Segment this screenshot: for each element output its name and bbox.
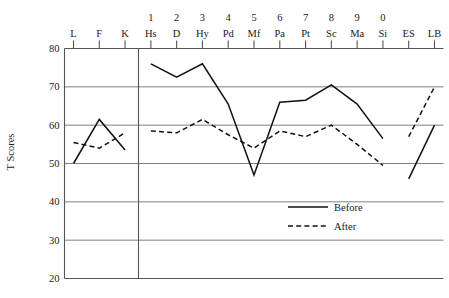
scale-label-f: F bbox=[96, 28, 102, 39]
scale-label-sc: Sc bbox=[326, 28, 337, 39]
scale-label-ma: Ma bbox=[350, 28, 364, 39]
scale-label-es: ES bbox=[403, 28, 415, 39]
scale-number-si: 0 bbox=[380, 12, 385, 23]
scale-number-pa: 6 bbox=[277, 12, 282, 23]
scale-number-mf: 5 bbox=[251, 12, 256, 23]
chart-legend: BeforeAfter bbox=[288, 202, 363, 232]
scale-label-mf: Mf bbox=[248, 28, 261, 39]
y-tick-70: 70 bbox=[49, 81, 60, 92]
y-tick-40: 40 bbox=[49, 196, 60, 207]
scale-label-l: L bbox=[70, 28, 76, 39]
scale-number-pt: 7 bbox=[303, 12, 308, 23]
y-tick-20: 20 bbox=[49, 273, 60, 284]
series-before-segment-0 bbox=[74, 119, 126, 163]
scale-label-pt: Pt bbox=[301, 28, 310, 39]
series-after-segment-2 bbox=[409, 87, 435, 137]
scale-label-k: K bbox=[121, 28, 129, 39]
y-tick-60: 60 bbox=[49, 120, 60, 131]
data-series-group bbox=[74, 64, 435, 179]
legend-label-before: Before bbox=[334, 202, 363, 213]
scale-number-ma: 9 bbox=[355, 12, 360, 23]
chart-figure: LFK1Hs2D3Hy4Pd5Mf6Pa7Pt8Sc9Ma0SiESLB 807… bbox=[0, 0, 449, 298]
y-axis-title: T Scores bbox=[5, 134, 16, 171]
y-tick-80: 80 bbox=[49, 43, 60, 54]
scale-label-d: D bbox=[173, 28, 181, 39]
series-before-segment-1 bbox=[151, 64, 383, 175]
series-after-segment-1 bbox=[151, 119, 383, 165]
scale-number-hs: 1 bbox=[148, 12, 153, 23]
mmpi-profile-chart: LFK1Hs2D3Hy4Pd5Mf6Pa7Pt8Sc9Ma0SiESLB 807… bbox=[0, 0, 449, 298]
scale-label-pa: Pa bbox=[275, 28, 286, 39]
scale-number-hy: 3 bbox=[200, 12, 205, 23]
scale-label-hs: Hs bbox=[145, 28, 157, 39]
scale-label-hy: Hy bbox=[196, 28, 210, 39]
y-tick-50: 50 bbox=[49, 158, 60, 169]
y-tick-30: 30 bbox=[49, 235, 60, 246]
scale-label-pd: Pd bbox=[223, 28, 235, 39]
scale-number-d: 2 bbox=[174, 12, 179, 23]
scale-number-sc: 8 bbox=[329, 12, 334, 23]
top-axis-ticks bbox=[74, 41, 435, 49]
gridlines-group bbox=[65, 87, 444, 240]
scale-label-si: Si bbox=[379, 28, 388, 39]
legend-label-after: After bbox=[334, 221, 357, 232]
top-axis-labels: LFK1Hs2D3Hy4Pd5Mf6Pa7Pt8Sc9Ma0SiESLB bbox=[70, 12, 441, 39]
y-axis-tick-labels: 80706050403020 bbox=[49, 43, 60, 284]
scale-number-pd: 4 bbox=[226, 12, 232, 23]
series-before-segment-2 bbox=[409, 125, 435, 179]
scale-label-lb: LB bbox=[428, 28, 441, 39]
